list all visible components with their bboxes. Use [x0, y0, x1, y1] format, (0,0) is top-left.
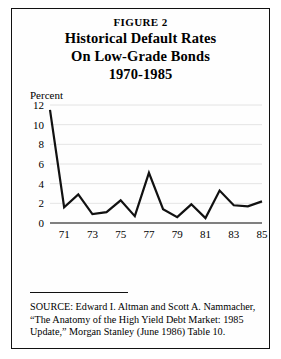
title-block: FIGURE 2 Historical Default Rates On Low…: [12, 9, 269, 83]
source-line-1: SOURCE: Edward I. Altman and Scott A. Na…: [30, 301, 258, 314]
y-tick-label: 8: [39, 138, 45, 150]
figure-title-line-1: Historical Default Rates: [12, 29, 269, 47]
source-line-2: “The Anatomy of the High Yield Debt Mark…: [30, 314, 258, 327]
y-tick-label: 2: [39, 197, 45, 209]
x-tick-label: 75: [115, 228, 127, 240]
x-tick-label: 73: [87, 228, 99, 240]
y-tick-label: 12: [33, 101, 44, 111]
default-rates-line-chart: 0246810127173757779818385: [12, 101, 268, 249]
y-tick-label: 6: [39, 158, 45, 170]
x-tick-label: 79: [172, 228, 184, 240]
y-tick-label: 0: [39, 217, 45, 229]
x-tick-label: 77: [143, 228, 155, 240]
source-line-3: Update,” Morgan Stanley (June 1986) Tabl…: [30, 326, 258, 339]
source-divider: [30, 292, 128, 293]
x-tick-label: 85: [257, 228, 269, 240]
figure-title-line-2: On Low-Grade Bonds: [12, 47, 269, 65]
x-tick-label: 81: [200, 228, 211, 240]
y-tick-label: 4: [39, 178, 45, 190]
figure-number: FIGURE 2: [12, 15, 269, 29]
figure-frame: FIGURE 2 Historical Default Rates On Low…: [11, 8, 270, 349]
source-note: SOURCE: Edward I. Altman and Scott A. Na…: [30, 301, 258, 339]
x-tick-label: 71: [59, 228, 70, 240]
y-tick-label: 10: [33, 119, 45, 131]
x-tick-label: 83: [228, 228, 240, 240]
y-axis-label: Percent: [30, 89, 63, 101]
chart-area: Percent 0246810127173757779818385: [12, 89, 269, 249]
figure-title-line-3: 1970-1985: [12, 65, 269, 83]
